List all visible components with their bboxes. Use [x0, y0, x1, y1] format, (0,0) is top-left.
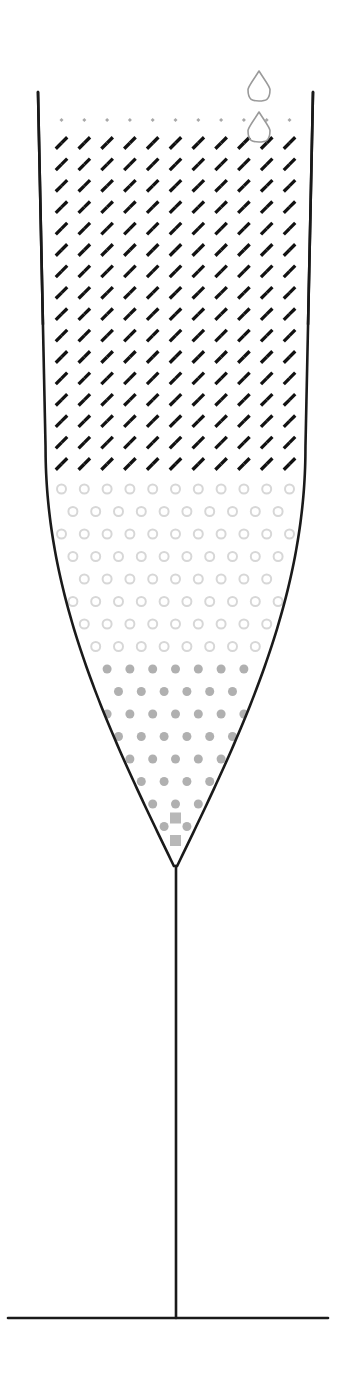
pattern-dot: [205, 777, 214, 786]
pattern-dot: [194, 800, 203, 809]
pattern-dot: [194, 665, 203, 674]
pattern-dot: [205, 732, 214, 741]
pattern-dot: [171, 710, 180, 719]
pattern-dot: [194, 710, 203, 719]
pattern-dot: [148, 755, 157, 764]
pattern-dot: [103, 665, 112, 674]
pattern-dot: [182, 732, 191, 741]
pattern-dot: [205, 687, 214, 696]
pattern-dot: [239, 665, 248, 674]
pattern-square: [170, 835, 181, 846]
pattern-dot: [137, 687, 146, 696]
pattern-dot: [137, 732, 146, 741]
pattern-dot: [160, 777, 169, 786]
illustration-canvas: Champagne Flute Effervescence fill Dropl…: [0, 0, 352, 1384]
pattern-dot: [125, 755, 134, 764]
pattern-dot: [148, 800, 157, 809]
pattern-dot: [228, 687, 237, 696]
pattern-dot: [217, 755, 226, 764]
champagne-flute-illustration: [0, 0, 352, 1384]
pattern-dot: [182, 777, 191, 786]
pattern-dot: [182, 822, 191, 831]
pattern-dot: [160, 732, 169, 741]
pattern-dot: [160, 822, 169, 831]
pattern-dot: [148, 710, 157, 719]
pattern-dot: [182, 687, 191, 696]
pattern-dot: [114, 687, 123, 696]
pattern-dot: [171, 755, 180, 764]
pattern-dot: [148, 665, 157, 674]
pattern-square: [170, 813, 181, 824]
pattern-dot: [137, 777, 146, 786]
pattern-dot: [194, 755, 203, 764]
pattern-dot: [217, 710, 226, 719]
pattern-dot: [171, 800, 180, 809]
pattern-dot: [217, 665, 226, 674]
pattern-dot: [171, 665, 180, 674]
pattern-dot: [125, 665, 134, 674]
pattern-dot: [125, 710, 134, 719]
pattern-dot: [160, 687, 169, 696]
